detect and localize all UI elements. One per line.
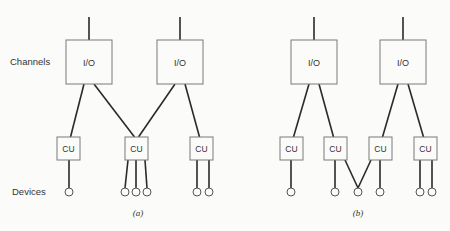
device-circle-icon <box>193 188 201 196</box>
io-channel-label: I/O <box>308 58 320 68</box>
io-channel-label: I/O <box>174 58 186 68</box>
device-circle-icon <box>132 188 140 196</box>
control-unit-box: CU <box>414 137 437 160</box>
device-circle-icon <box>205 188 213 196</box>
device-circle-icon <box>354 188 362 196</box>
device-circle-icon <box>121 188 129 196</box>
cu-device-link <box>358 160 371 188</box>
control-unit-label: CU <box>285 144 297 154</box>
io-channel-box: I/O <box>157 40 203 84</box>
control-unit-label: CU <box>130 144 142 154</box>
cu-device-link <box>125 160 128 188</box>
io-channel-label: I/O <box>397 58 409 68</box>
channel-cu-link <box>294 84 310 137</box>
diagram-b: I/OI/OCUCUCUCU(b) <box>280 17 437 218</box>
cu-device-link <box>145 160 147 188</box>
io-channel-box: I/O <box>380 40 426 84</box>
diagram-caption: (b) <box>353 208 364 218</box>
device-circle-icon <box>416 188 424 196</box>
io-channel-box: I/O <box>291 40 337 84</box>
control-unit-box: CU <box>369 137 392 160</box>
control-unit-box: CU <box>190 137 213 160</box>
cu-device-link <box>345 160 358 188</box>
io-channel-box: I/O <box>66 40 112 84</box>
control-unit-box: CU <box>280 137 303 160</box>
control-unit-label: CU <box>329 144 341 154</box>
device-circle-icon <box>65 188 73 196</box>
io-channel-label: I/O <box>83 58 95 68</box>
control-unit-label: CU <box>62 144 74 154</box>
device-circle-icon <box>428 188 436 196</box>
channel-cu-link <box>319 84 334 137</box>
devices-label: Devices <box>12 186 46 197</box>
device-circle-icon <box>331 188 339 196</box>
control-unit-label: CU <box>195 144 207 154</box>
channel-cu-link <box>71 84 85 137</box>
control-unit-box: CU <box>324 137 347 160</box>
diagram-caption: (a) <box>133 208 144 218</box>
control-unit-box: CU <box>57 137 80 160</box>
device-circle-icon <box>287 188 295 196</box>
control-unit-label: CU <box>419 144 431 154</box>
device-circle-icon <box>143 188 151 196</box>
device-circle-icon <box>376 188 384 196</box>
io-channel-diagram: Channels Devices I/OI/OCUCUCU(a) I/OI/OC… <box>0 0 450 231</box>
control-unit-box: CU <box>125 137 148 160</box>
diagram-a: I/OI/OCUCUCU(a) <box>57 17 213 218</box>
channel-cu-link <box>408 84 424 137</box>
channels-label: Channels <box>10 56 50 67</box>
control-unit-label: CU <box>374 144 386 154</box>
channel-cu-link <box>139 84 176 137</box>
channel-cu-link <box>185 84 200 137</box>
channel-cu-link <box>383 84 399 137</box>
channel-cu-link <box>94 84 135 137</box>
